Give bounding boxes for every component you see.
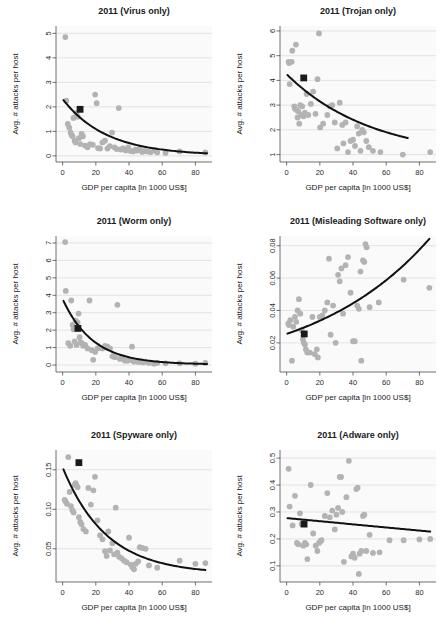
data-point	[88, 502, 94, 508]
x-axis-title: GDP per capita [in 1000 US$]	[81, 603, 186, 612]
data-point	[131, 566, 137, 572]
chart-panel: 2011 (Worm only)02040608001234567GDP per…	[0, 210, 224, 420]
y-tick-label: 0.08	[269, 238, 278, 253]
x-tick-label: 20	[92, 378, 100, 387]
data-point	[286, 466, 292, 472]
data-point	[290, 523, 296, 529]
x-tick-label: 20	[92, 588, 100, 597]
data-point	[109, 130, 115, 136]
x-tick-label: 0	[285, 588, 289, 597]
chart-panel: 2011 (Misleading Software only)020406080…	[224, 210, 448, 420]
data-point	[113, 505, 119, 511]
data-point	[401, 277, 407, 283]
x-tick-label: 20	[316, 378, 324, 387]
data-point	[94, 100, 100, 106]
x-axis-title: GDP per capita [in 1000 US$]	[305, 393, 410, 402]
data-point	[67, 343, 73, 349]
data-point	[297, 311, 303, 317]
multi-panel-scatter-figure: 2011 (Virus only)020406080012345GDP per …	[0, 0, 448, 638]
data-point	[400, 152, 406, 158]
y-tick-label: 0.05	[45, 541, 54, 556]
panel-title: 2011 (Worm only)	[97, 216, 171, 226]
data-point	[324, 112, 330, 118]
y-tick-label: 1	[45, 129, 54, 133]
y-tick-label: 5	[45, 276, 54, 280]
data-point	[146, 563, 152, 569]
data-point	[62, 34, 68, 40]
data-point	[377, 549, 383, 555]
data-point	[333, 340, 339, 346]
data-point	[67, 489, 73, 495]
chart-panel: 2011 (Trojan only)020406080123456GDP per…	[224, 0, 448, 210]
data-point	[308, 101, 314, 107]
data-point	[66, 125, 72, 131]
x-tick-label: 80	[415, 588, 423, 597]
data-point	[65, 454, 71, 460]
data-point	[350, 137, 356, 143]
data-point	[316, 31, 322, 37]
data-point	[352, 555, 358, 561]
data-point	[292, 493, 298, 499]
data-point	[154, 150, 160, 156]
data-point	[85, 485, 91, 491]
data-point	[76, 311, 82, 317]
highlight-marker	[76, 459, 83, 466]
data-point	[87, 298, 93, 304]
y-tick-label: 0.10	[45, 502, 54, 517]
data-point	[135, 559, 141, 565]
data-point	[340, 311, 346, 317]
y-axis-title: Avg. # attacks per host	[11, 53, 20, 135]
y-axis-title: Avg. # attacks per host	[11, 475, 20, 557]
data-point	[387, 537, 393, 543]
data-point	[322, 308, 328, 314]
data-point	[102, 138, 108, 144]
data-point	[332, 120, 338, 126]
y-tick-label: 0.4	[269, 480, 278, 490]
y-tick-label: 1	[269, 152, 278, 156]
data-point	[338, 474, 344, 480]
data-point	[326, 256, 332, 262]
data-point	[335, 272, 341, 278]
data-point	[90, 357, 96, 363]
data-point	[358, 148, 364, 154]
y-tick-label: 4	[45, 293, 54, 297]
data-point	[296, 296, 302, 302]
y-tick-label: 0	[45, 363, 54, 367]
data-point	[339, 509, 345, 515]
y-tick-label: 0.1	[269, 561, 278, 571]
data-point	[361, 129, 367, 135]
x-axis-title: GDP per capita [in 1000 US$]	[305, 603, 410, 612]
data-point	[329, 508, 335, 514]
data-point	[427, 149, 433, 155]
x-tick-label: 0	[285, 378, 289, 387]
data-point	[345, 254, 351, 260]
data-point	[289, 59, 295, 65]
data-point	[427, 536, 433, 542]
x-tick-label: 0	[61, 378, 65, 387]
y-axis-title: Avg. # attacks per host	[11, 263, 20, 345]
data-point	[305, 112, 311, 118]
data-point	[358, 358, 364, 364]
data-point	[335, 505, 341, 511]
x-tick-label: 40	[349, 378, 357, 387]
data-point	[358, 548, 364, 554]
y-tick-label: 0	[45, 154, 54, 158]
data-point	[90, 142, 96, 148]
data-point	[177, 558, 183, 564]
y-tick-label: 2	[269, 128, 278, 132]
x-tick-label: 60	[382, 378, 390, 387]
data-point	[354, 123, 360, 129]
data-point	[313, 111, 319, 117]
data-point	[343, 120, 349, 126]
data-point	[356, 571, 362, 577]
data-point	[202, 560, 208, 566]
data-point	[367, 304, 373, 310]
data-point	[299, 103, 305, 109]
y-tick-label: 5	[45, 31, 54, 35]
y-axis-title: Avg. # attacks per host	[235, 53, 244, 135]
data-point	[112, 354, 118, 360]
data-point	[363, 138, 369, 144]
x-tick-label: 20	[92, 168, 100, 177]
x-tick-label: 80	[191, 588, 199, 597]
data-point	[116, 105, 122, 111]
